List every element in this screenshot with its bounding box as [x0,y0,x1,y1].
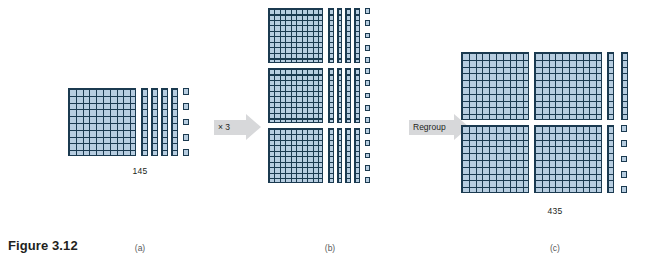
multiply-arrow-label: × 3 [218,120,230,135]
tens-rod [328,8,334,63]
ones-unit [365,153,371,159]
tens-rod-group [141,88,178,156]
hundreds-flat [534,125,602,193]
hundreds-flat [534,52,602,120]
tens-rod [621,52,628,120]
tens-rod [161,88,168,156]
hundreds-flat [461,125,529,193]
ones-unit [365,117,371,123]
ones-unit [365,93,371,99]
ones-unit-group [365,8,371,63]
ones-unit [365,177,371,183]
ones-unit [365,105,371,111]
ones-unit [365,33,371,39]
tens-rod [337,128,343,183]
ones-unit [183,119,190,126]
ones-unit [365,8,371,14]
ones-unit [365,80,371,86]
tens-rod [354,128,360,183]
panel-a-value: 145 [110,166,170,176]
blocks-row-b-3 [268,128,370,183]
tens-rod [607,52,614,120]
tens-rod [345,68,351,123]
tens-rod [345,128,351,183]
panel-a [68,88,189,156]
tens-rod [141,88,148,156]
ones-unit [621,156,628,163]
blocks-row-b-1 [268,8,370,63]
hundreds-flat [268,68,323,123]
hundreds-flat [268,128,323,183]
tens-rod [337,8,343,63]
ones-unit [365,165,371,171]
tens-rod-group [607,125,614,193]
tens-rod-group [328,68,360,123]
ones-unit [365,140,371,146]
figure-title: Figure 3.12 [8,238,78,253]
blocks-row-b-2 [268,68,370,123]
tens-rod-group [328,128,360,183]
hundreds-flat [268,8,323,63]
hundreds-flat [461,52,529,120]
tens-rod [328,68,334,123]
tens-rod [328,128,334,183]
blocks-row-c-2 [461,125,628,193]
blocks-row-a [68,88,189,156]
ones-unit [365,20,371,26]
panel-a-label: (a) [110,243,170,253]
ones-unit [183,88,190,95]
regroup-arrow: Regroup [409,114,469,140]
tens-rod-group [328,8,360,63]
ones-unit [365,57,371,63]
tens-rod [171,88,178,156]
ones-unit [365,45,371,51]
tens-rod-group [607,52,628,120]
hundreds-flat [68,88,136,156]
ones-unit-group [621,125,628,193]
panel-c-value: 435 [525,206,585,216]
ones-unit [365,128,371,134]
panel-c [461,52,628,193]
ones-unit [621,125,628,132]
tens-rod [151,88,158,156]
ones-unit [621,140,628,147]
ones-unit [183,103,190,110]
panel-c-label: (c) [525,243,585,253]
ones-unit-group [365,128,371,183]
multiply-arrow: × 3 [214,114,261,140]
tens-rod [607,125,614,193]
arrow-head-icon [246,114,261,140]
panel-b [268,8,370,183]
ones-unit [183,149,190,156]
blocks-row-c-1 [461,52,628,120]
ones-unit [183,134,190,141]
tens-rod [345,8,351,63]
ones-unit [621,171,628,178]
panel-b-label: (b) [300,243,360,253]
tens-rod [354,8,360,63]
tens-rod [337,68,343,123]
ones-unit-group [183,88,190,156]
tens-rod [354,68,360,123]
regroup-arrow-label: Regroup [413,120,446,135]
ones-unit-group [365,68,371,123]
ones-unit [365,68,371,74]
ones-unit [621,186,628,193]
